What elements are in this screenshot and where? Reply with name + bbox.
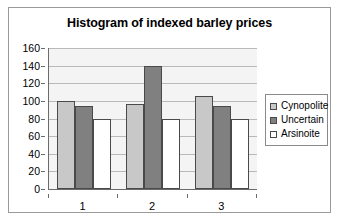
legend-item-cynopolite[interactable]: Cynopolite bbox=[270, 99, 323, 113]
x-tick-label: 2 bbox=[149, 200, 155, 212]
legend-label: Cynopolite bbox=[281, 101, 328, 111]
legend-label: Uncertain bbox=[281, 115, 324, 125]
x-tick-label: 1 bbox=[80, 200, 86, 212]
legend-item-arsinoite[interactable]: Arsinoite bbox=[270, 127, 323, 141]
bar-cynopolite-3 bbox=[195, 96, 213, 189]
y-tick-mark bbox=[41, 48, 45, 49]
bar-cynopolite-2 bbox=[126, 104, 144, 189]
y-tick-mark bbox=[41, 171, 45, 172]
legend-label: Arsinoite bbox=[281, 129, 320, 139]
y-tick-mark bbox=[41, 189, 45, 190]
plot-area bbox=[48, 48, 257, 190]
gridline bbox=[49, 48, 257, 49]
chart-title: Histogram of indexed barley prices bbox=[9, 16, 330, 30]
bar-arsinoite-1 bbox=[93, 119, 111, 189]
x-axis: 123 bbox=[48, 194, 257, 214]
bar-arsinoite-3 bbox=[231, 119, 249, 189]
legend-swatch-icon bbox=[270, 131, 277, 138]
y-tick-mark bbox=[41, 136, 45, 137]
y-tick-label: 140 bbox=[22, 60, 40, 72]
y-tick-label: 20 bbox=[28, 165, 40, 177]
y-tick-label: 100 bbox=[22, 95, 40, 107]
legend-swatch-icon bbox=[270, 103, 277, 110]
x-tick-mark bbox=[48, 194, 49, 198]
y-tick-label: 120 bbox=[22, 77, 40, 89]
y-tick-mark bbox=[41, 154, 45, 155]
y-tick-label: 0 bbox=[34, 183, 40, 195]
x-tick-mark bbox=[117, 194, 118, 198]
bar-cynopolite-1 bbox=[57, 101, 75, 189]
y-tick-label: 160 bbox=[22, 42, 40, 54]
y-tick-mark bbox=[41, 101, 45, 102]
bar-uncertain-3 bbox=[213, 106, 231, 189]
x-tick-mark bbox=[256, 194, 257, 198]
bar-uncertain-1 bbox=[75, 106, 93, 189]
bar-uncertain-2 bbox=[144, 66, 162, 189]
bar-arsinoite-2 bbox=[162, 119, 180, 189]
x-tick-mark bbox=[187, 194, 188, 198]
y-tick-label: 80 bbox=[28, 113, 40, 125]
chart-legend: CynopoliteUncertainArsinoite bbox=[265, 94, 328, 146]
y-axis: 020406080100120140160 bbox=[9, 48, 45, 189]
chart-frame: Histogram of indexed barley prices 02040… bbox=[8, 7, 331, 213]
legend-item-uncertain[interactable]: Uncertain bbox=[270, 113, 323, 127]
y-tick-mark bbox=[41, 119, 45, 120]
y-tick-mark bbox=[41, 66, 45, 67]
y-tick-mark bbox=[41, 83, 45, 84]
x-tick-label: 3 bbox=[218, 200, 224, 212]
y-tick-label: 60 bbox=[28, 130, 40, 142]
y-tick-label: 40 bbox=[28, 148, 40, 160]
legend-swatch-icon bbox=[270, 117, 277, 124]
